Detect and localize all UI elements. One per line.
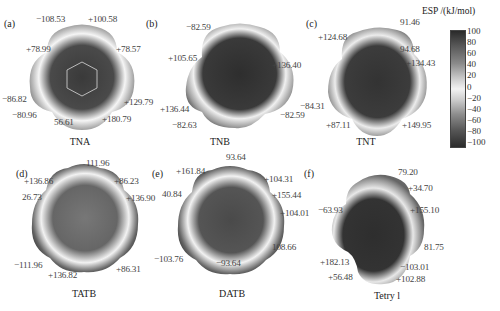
molecule-name: TNB — [200, 136, 240, 147]
panel-label: (e) — [152, 168, 163, 179]
molecule-name: TNA — [60, 136, 100, 147]
molecule-name: DATB — [212, 288, 252, 299]
panel-label: (a) — [4, 18, 15, 29]
colorbar-title: ESP /(kJ/mol) — [422, 6, 475, 16]
molecule-name: TATB — [64, 288, 104, 299]
panel-label: (f) — [304, 168, 314, 179]
molecule-name: Tetry l — [362, 290, 412, 301]
colorbar-gradient — [450, 30, 466, 148]
molecule-name: TNT — [346, 136, 386, 147]
panel-label: (c) — [306, 18, 317, 29]
panel-label: (b) — [146, 18, 158, 29]
